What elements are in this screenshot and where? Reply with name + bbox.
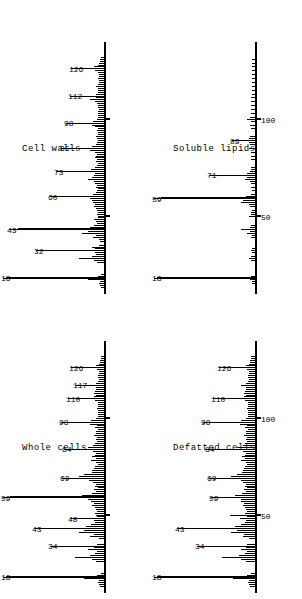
peak-bar (252, 190, 255, 191)
peak-bar (98, 402, 104, 403)
peak-bar (246, 389, 255, 390)
peak-bar (94, 489, 104, 490)
peak-bar (90, 150, 104, 151)
peak-bar (98, 406, 104, 407)
peak-bar (98, 105, 104, 106)
peak-bar (233, 578, 255, 579)
peak-label-cell-walls-32: 32 (34, 248, 44, 256)
peak-bar (237, 474, 255, 475)
peak-bar (252, 235, 255, 236)
peak-bar (96, 439, 104, 440)
peak-bar (251, 237, 255, 238)
peak-bar (92, 177, 104, 178)
peak-bar (43, 528, 104, 529)
peak-bar (246, 439, 255, 440)
peak-bar (252, 94, 255, 95)
peak-bar (97, 575, 104, 576)
peak-bar (248, 406, 255, 407)
peak-bar (98, 113, 104, 114)
peak-bar (96, 491, 104, 492)
peak-bar (241, 202, 255, 203)
peak-bar (6, 576, 104, 578)
peak-bar (90, 99, 104, 100)
peak-bar (82, 233, 104, 234)
spectrum-canvas-whole-cells: 1834434859698498110117126Whole cells (0, 337, 118, 599)
peak-bar (241, 229, 255, 230)
peak-bar (246, 433, 255, 434)
peak-bar (96, 235, 104, 236)
peak-bar (79, 476, 104, 477)
peak-bar (97, 103, 104, 104)
peak-bar (95, 152, 104, 153)
peak-bar (246, 561, 255, 562)
peak-bar (95, 248, 104, 249)
peak-bar (95, 101, 104, 102)
peak-bar (96, 418, 104, 419)
peak-bar (96, 515, 104, 516)
peak-bar (18, 228, 104, 230)
peak-bar (252, 252, 255, 253)
peak-label-defatted-cells-69: 69 (207, 475, 217, 483)
peak-bar (246, 462, 255, 463)
peak-bar (99, 82, 104, 83)
peak-bar (241, 420, 255, 421)
peak-bar (246, 547, 255, 548)
peak-bar (100, 59, 104, 60)
peak-bar (248, 582, 255, 583)
peak-bar (98, 115, 104, 116)
peak-bar (251, 128, 255, 129)
peak-bar (246, 196, 255, 197)
peak-bar (248, 412, 255, 413)
peak-bar (250, 586, 255, 587)
peak-bar (242, 472, 255, 473)
peak-bar (98, 107, 104, 108)
peak-bar (247, 464, 255, 465)
peak-bar (97, 119, 104, 120)
peak-bar (88, 179, 104, 180)
peak-bar (244, 503, 255, 504)
peak-bar (95, 443, 104, 444)
peak-bar (97, 190, 104, 191)
peak-bar (252, 281, 255, 282)
panel-soluble-lipids: 5010018597189Soluble lipids (151, 0, 302, 300)
peak-bar (96, 453, 104, 454)
peak-bar (252, 78, 255, 79)
peak-bar (231, 476, 255, 477)
peak-bar (251, 109, 255, 110)
peak-bar (94, 520, 104, 521)
peak-bar (251, 250, 255, 251)
peak-bar (77, 398, 104, 399)
peak-bar (231, 532, 255, 533)
peak-bar (222, 398, 255, 399)
peak-label-defatted-cells-43: 43 (175, 526, 185, 534)
peak-bar (248, 429, 255, 430)
peak-bar (250, 206, 255, 207)
axis-tick-label-soluble-lipids-50: 50 (261, 214, 271, 222)
peak-bar (94, 534, 104, 535)
peak-bar (84, 578, 104, 579)
peak-bar (100, 241, 104, 242)
peak-bar (251, 167, 255, 168)
peak-bar (244, 489, 255, 490)
peak-bar (247, 177, 255, 178)
peak-bar (96, 136, 104, 137)
peak-bar (94, 468, 104, 469)
peak-bar (251, 187, 255, 188)
peak-bar (245, 427, 255, 428)
peak-bar (95, 400, 104, 401)
peak-bar (98, 218, 104, 219)
peak-bar (92, 470, 104, 471)
peak-bar (93, 202, 104, 203)
peak-bar (245, 458, 255, 459)
peak-bar (95, 167, 104, 168)
peak-bar (99, 109, 104, 110)
peak-bar (98, 78, 104, 79)
peak-bar (242, 493, 255, 494)
peak-bar (96, 383, 104, 384)
peak-bar (79, 258, 104, 259)
peak-bar (245, 553, 255, 554)
peak-bar (98, 582, 104, 583)
peak-bar (252, 82, 255, 83)
peak-bar (97, 511, 104, 512)
peak-bar (99, 379, 104, 380)
